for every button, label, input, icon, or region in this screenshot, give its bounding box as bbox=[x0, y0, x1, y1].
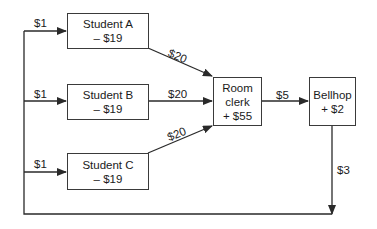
student-c-box: Student C – $19 bbox=[67, 153, 149, 190]
room-clerk-line2: clerk bbox=[225, 95, 249, 109]
room-clerk-box: Room clerk + $55 bbox=[213, 77, 262, 126]
label-bellhop-return: $3 bbox=[337, 164, 350, 176]
bellhop-box: Bellhop + $2 bbox=[309, 77, 356, 126]
student-b-name: Student B bbox=[83, 88, 134, 102]
label-to-student-c: $1 bbox=[34, 158, 47, 170]
label-b-to-clerk: $20 bbox=[168, 88, 187, 100]
student-b-value: – $19 bbox=[94, 102, 123, 116]
label-to-student-b: $1 bbox=[34, 88, 47, 100]
student-b-box: Student B – $19 bbox=[67, 84, 149, 120]
room-clerk-value: + $55 bbox=[223, 109, 252, 123]
student-a-value: – $19 bbox=[94, 31, 123, 45]
label-to-student-a: $1 bbox=[34, 17, 47, 29]
student-a-name: Student A bbox=[83, 17, 133, 31]
student-c-value: – $19 bbox=[94, 172, 123, 186]
bellhop-name: Bellhop bbox=[313, 88, 351, 102]
student-a-box: Student A – $19 bbox=[67, 13, 149, 49]
bellhop-value: + $2 bbox=[321, 102, 344, 116]
label-clerk-to-bellhop: $5 bbox=[276, 89, 289, 101]
student-c-name: Student C bbox=[82, 158, 133, 172]
room-clerk-line1: Room bbox=[222, 81, 253, 95]
